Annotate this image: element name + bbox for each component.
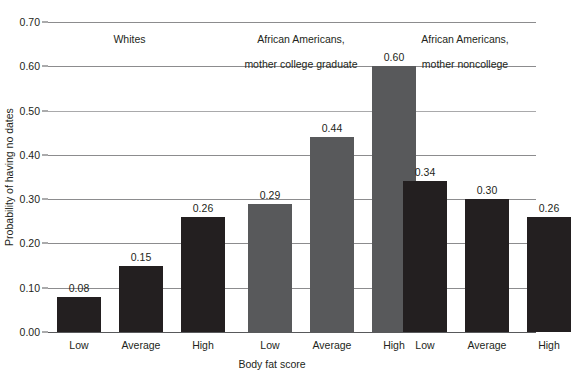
gridline-0.50 [48,111,536,112]
bar-value-label: 0.29 [240,190,300,201]
bar-value-label: 0.15 [111,252,171,263]
x-axis-tick-label: Average [300,340,364,351]
y-tick-label-0.10: 0.10 [2,282,40,293]
group-header-aa-noncollege-line1: African Americans, [390,33,540,46]
bar-value-label: 0.26 [173,203,233,214]
gridline-0.20 [48,243,536,244]
y-tick-label-0.40: 0.40 [2,150,40,161]
y-tick-label-0.70: 0.70 [2,17,40,28]
bar [248,204,292,332]
x-axis-title-text: Body fat score [238,358,305,370]
y-axis-title-text: Probability of having no dates [3,108,15,246]
gridline-0.00 [48,332,536,333]
x-axis-tick-label: Average [109,340,173,351]
x-axis-title: Body fat score [0,358,544,370]
bar [465,199,509,332]
group-header-aa-noncollege: African Americans, mother noncollege [390,20,540,83]
x-axis-tick-label: Low [393,340,457,351]
bar-value-label: 0.26 [519,203,575,214]
x-axis-tick-label: High [517,340,575,351]
group-header-whites: Whites [48,20,211,45]
bar-value-label: 0.34 [395,167,455,178]
bar [310,137,354,332]
group-header-aa-college: African Americans, mother college gradua… [218,20,384,83]
bar-value-label: 0.30 [457,185,517,196]
bar [181,217,225,332]
y-tick-label-0.20: 0.20 [2,238,40,249]
x-axis-tick-label: High [171,340,235,351]
bar [527,217,571,332]
group-header-whites-text: Whites [113,33,145,45]
x-axis-tick-label: Low [238,340,302,351]
bar-value-label: 0.08 [49,283,109,294]
bar [57,297,101,332]
gridline-0.40 [48,155,536,156]
group-header-aa-college-line1: African Americans, [218,33,384,46]
group-header-aa-college-line2: mother college graduate [218,58,384,71]
bar [403,181,447,332]
bar [119,266,163,332]
y-tick-label-0.00: 0.00 [2,327,40,338]
group-header-aa-noncollege-line2: mother noncollege [390,58,540,71]
y-tick-label-0.30: 0.30 [2,194,40,205]
x-axis-tick-label: Low [47,340,111,351]
bar-value-label: 0.44 [302,123,362,134]
y-tick-label-0.50: 0.50 [2,105,40,116]
x-axis-tick-label: Average [455,340,519,351]
y-tick-label-0.60: 0.60 [2,61,40,72]
